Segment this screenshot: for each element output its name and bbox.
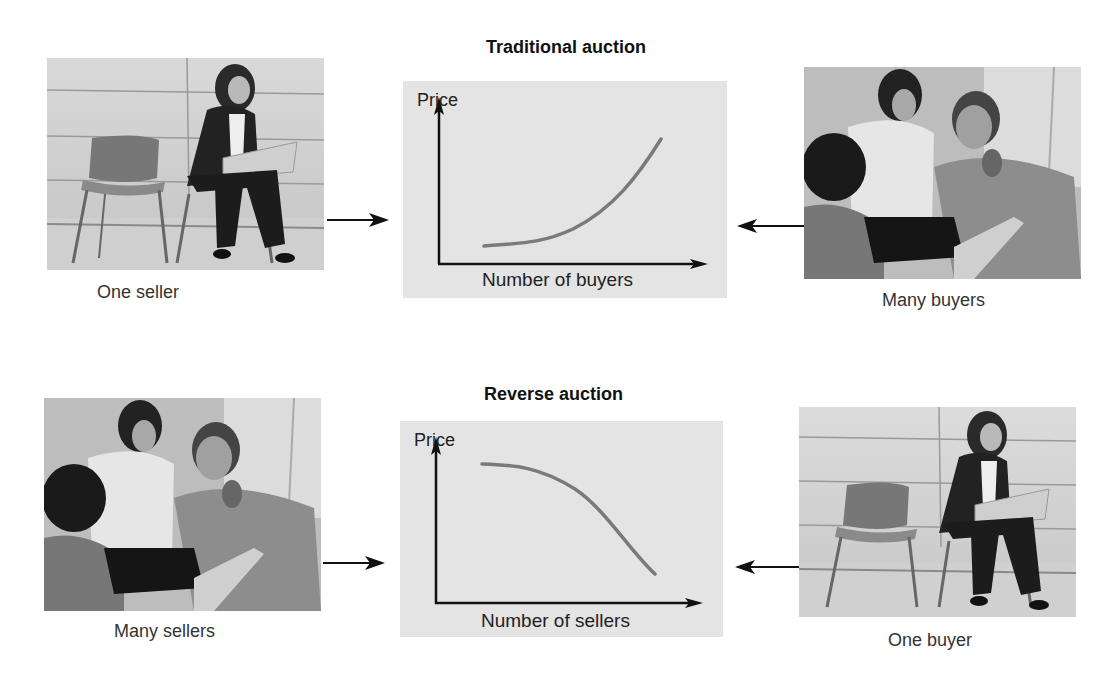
- price-curve-rising: [484, 139, 661, 246]
- y-axis-label: Price: [414, 430, 455, 451]
- arrow-left-icon: [735, 557, 799, 577]
- traditional-price-chart: Price Number of buyers: [403, 81, 727, 298]
- one-seller-caption: One seller: [97, 282, 179, 303]
- x-axis-label: Number of buyers: [482, 269, 633, 291]
- many-buyers-caption: Many buyers: [882, 290, 985, 311]
- traditional-auction-title: Traditional auction: [486, 37, 646, 58]
- many-sellers-photo: [44, 398, 321, 611]
- one-buyer-photo: [799, 407, 1076, 617]
- price-curve-falling: [482, 464, 655, 574]
- reverse-auction-title: Reverse auction: [484, 384, 623, 405]
- x-axis-label: Number of sellers: [481, 610, 630, 632]
- one-seller-photo: [47, 58, 324, 270]
- y-axis-label: Price: [417, 90, 458, 111]
- arrow-right-icon: [327, 210, 389, 230]
- one-buyer-caption: One buyer: [888, 630, 972, 651]
- many-buyers-photo: [804, 67, 1081, 279]
- arrow-right-icon: [323, 553, 385, 573]
- arrow-left-icon: [737, 216, 805, 236]
- many-sellers-caption: Many sellers: [114, 621, 215, 642]
- reverse-price-chart: Price Number of sellers: [400, 421, 723, 637]
